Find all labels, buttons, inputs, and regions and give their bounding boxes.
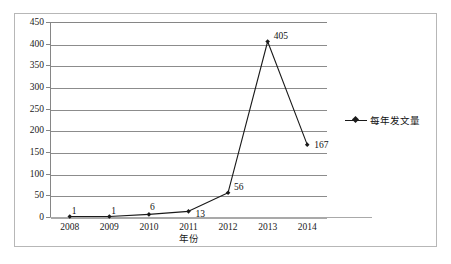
data-point-marker (265, 39, 270, 44)
legend: 每年发文量 (345, 112, 420, 128)
data-point-label: 1 (111, 206, 116, 216)
data-point-marker (305, 142, 310, 147)
data-point-label: 1 (72, 206, 77, 216)
data-point-label: 13 (196, 209, 206, 219)
data-point-label: 405 (274, 31, 288, 41)
legend-marker-diamond-icon (345, 116, 367, 125)
chart-figure: 450400350300250200150100500 200820092010… (0, 0, 451, 264)
data-point-marker (186, 209, 191, 214)
data-point-marker (226, 190, 231, 195)
data-point-label: 167 (314, 140, 328, 150)
series-line-layer (0, 0, 451, 264)
data-point-marker (147, 212, 152, 217)
data-point-label: 56 (234, 182, 244, 192)
legend-entry-label: 每年发文量 (370, 115, 420, 126)
data-point-label: 6 (150, 202, 155, 212)
series-line (70, 42, 307, 217)
